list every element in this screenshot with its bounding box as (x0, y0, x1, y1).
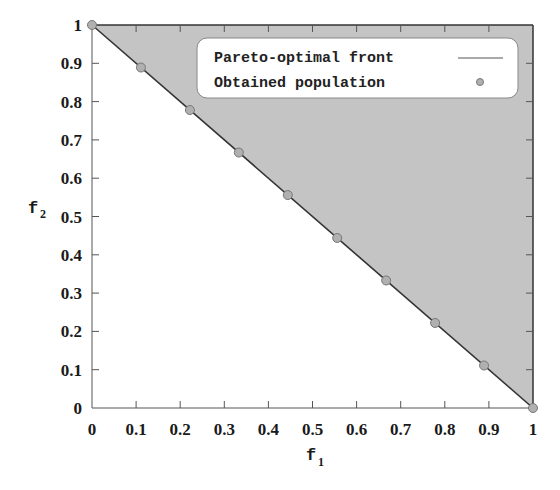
y-tick-label: 0.6 (61, 169, 82, 188)
y-tick-label: 0.7 (61, 131, 83, 150)
y-tick-label: 0.1 (61, 361, 82, 380)
population-point (431, 318, 440, 327)
population-point (234, 148, 243, 157)
x-tick-label: 0.4 (258, 420, 280, 439)
x-tick-label: 0.2 (170, 420, 191, 439)
legend-label-population: Obtained population (214, 75, 385, 92)
y-tick-label: 0.3 (61, 284, 82, 303)
pareto-chart: 00.10.20.30.40.50.60.70.80.9100.10.20.30… (0, 0, 560, 490)
x-tick-label: 0.3 (214, 420, 235, 439)
y-tick-label: 0.2 (61, 322, 82, 341)
x-tick-label: 0.1 (125, 420, 146, 439)
population-point (136, 63, 145, 72)
y-tick-label: 0.5 (61, 208, 82, 227)
population-point (333, 233, 342, 242)
x-tick-label: 0.7 (390, 420, 412, 439)
population-point (529, 404, 538, 413)
legend-label-front: Pareto-optimal front (214, 50, 394, 67)
y-axis-title: f 2 (28, 199, 46, 221)
legend: Pareto-optimal front Obtained population (197, 38, 518, 98)
x-axis-title: f 1 (306, 446, 324, 469)
population-point (382, 276, 391, 285)
y-tick-label: 0 (74, 399, 83, 418)
y-tick-label: 0.9 (61, 54, 82, 73)
x-tick-label: 0.8 (434, 420, 455, 439)
y-tick-label: 0.8 (61, 93, 82, 112)
svg-text:1: 1 (318, 455, 324, 469)
population-point (88, 21, 97, 30)
y-tick-label: 0.4 (61, 246, 83, 265)
x-tick-label: 0.6 (346, 420, 367, 439)
svg-text:2: 2 (40, 207, 46, 221)
population-point (283, 191, 292, 200)
x-tick-label: 0.9 (478, 420, 499, 439)
svg-text:f: f (306, 446, 316, 465)
population-point (185, 106, 194, 115)
x-tick-label: 1 (529, 420, 538, 439)
legend-circle-icon (477, 79, 484, 86)
x-tick-label: 0 (88, 420, 97, 439)
y-tick-label: 1 (74, 16, 83, 35)
svg-text:f: f (28, 199, 38, 218)
population-point (480, 361, 489, 370)
x-tick-label: 0.5 (302, 420, 323, 439)
